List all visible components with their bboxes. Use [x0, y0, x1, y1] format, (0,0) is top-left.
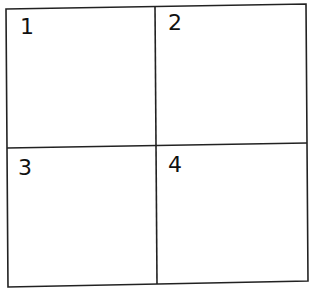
- cell-4-label: 4: [168, 154, 182, 176]
- cell-2-label: 2: [168, 12, 182, 34]
- cell-3-label: 3: [18, 157, 32, 179]
- grid-diagram: [0, 0, 316, 289]
- cell-1-label: 1: [20, 16, 34, 38]
- horizontal-divider: [7, 143, 307, 148]
